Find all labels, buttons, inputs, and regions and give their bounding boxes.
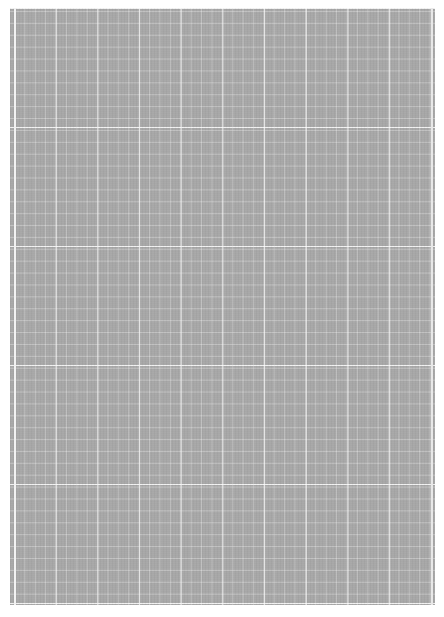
left-margin-line: [14, 8, 16, 605]
right-edge-line: [431, 8, 433, 605]
paper-texture: [10, 8, 435, 605]
grid-paper-sheet: [10, 8, 435, 605]
